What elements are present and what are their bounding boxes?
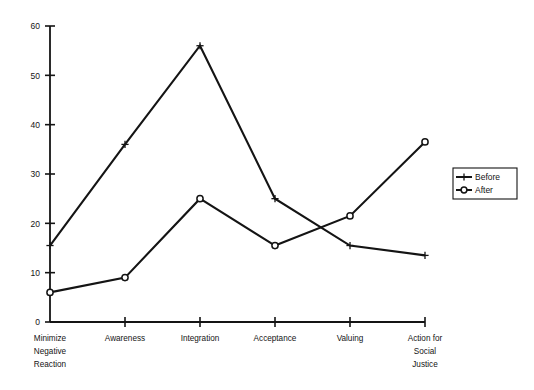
circle-marker-icon: [461, 187, 467, 193]
series-line-before: [50, 46, 425, 256]
circle-marker-icon: [47, 289, 53, 295]
y-axis: 0102030405060: [31, 21, 55, 327]
chart-page: 0102030405060 MinimizeNegativeReactionAw…: [0, 0, 534, 390]
y-axis-tick-label: 10: [31, 268, 41, 278]
series-plot-area: [46, 42, 428, 295]
circle-marker-icon: [272, 242, 278, 248]
legend-label: After: [475, 185, 493, 195]
x-axis-category-label: Integration: [181, 334, 220, 343]
chart-legend: BeforeAfter: [453, 168, 517, 199]
y-axis-tick-label: 30: [31, 169, 41, 179]
line-chart: 0102030405060 MinimizeNegativeReactionAw…: [0, 0, 534, 390]
y-axis-tick-label: 20: [31, 219, 41, 229]
circle-marker-icon: [122, 275, 128, 281]
y-axis-tick-label: 50: [31, 71, 41, 81]
circle-marker-icon: [422, 139, 428, 145]
x-axis-category-label: MinimizeNegativeReaction: [34, 334, 67, 369]
x-axis-category-label: Action forSocialJustice: [408, 334, 443, 369]
legend-label: Before: [475, 172, 500, 182]
plus-marker-icon: [421, 252, 428, 259]
x-axis-category-label: Valuing: [337, 334, 364, 343]
circle-marker-icon: [197, 196, 203, 202]
y-axis-tick-label: 40: [31, 120, 41, 130]
x-axis-category-label: Awareness: [105, 334, 145, 343]
y-axis-tick-label: 60: [31, 21, 41, 31]
y-axis-tick-label: 0: [35, 317, 40, 327]
x-axis-category-label: Acceptance: [254, 334, 297, 343]
x-axis: MinimizeNegativeReactionAwarenessIntegra…: [34, 317, 443, 369]
series-line-after: [50, 142, 425, 292]
circle-marker-icon: [347, 213, 353, 219]
